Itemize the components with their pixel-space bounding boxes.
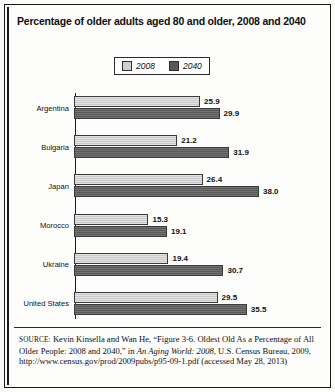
source-label: SOURCE:: [19, 336, 51, 344]
bar-2040[interactable]: [74, 304, 247, 315]
bar-group: United States29.535.5: [13, 289, 327, 319]
bar-value-label-2040: 19.1: [171, 227, 187, 236]
bar-row-2008: 21.2: [74, 135, 197, 146]
legend-swatch-2008: [122, 61, 132, 71]
bar-value-label-2008: 25.9: [204, 97, 220, 106]
bar-2040[interactable]: [74, 265, 223, 276]
legend-label-2008: 2008: [136, 61, 155, 71]
chart-title: Percentage of older adults aged 80 and o…: [17, 15, 320, 28]
bar-2008[interactable]: [74, 292, 218, 303]
bar-row-2008: 15.3: [74, 214, 168, 225]
bar-2040[interactable]: [74, 186, 259, 197]
legend-item-2008[interactable]: 2008: [122, 61, 155, 71]
category-label: Morocco: [13, 221, 73, 230]
source-note: SOURCE: Kevin Kinsella and Wan He, “Figu…: [19, 334, 318, 367]
bar-value-label-2008: 21.2: [181, 136, 197, 145]
bar-row-2040: 19.1: [74, 226, 187, 237]
bar-pair: 19.430.7: [73, 250, 327, 280]
figure-frame: Percentage of older adults aged 80 and o…: [4, 4, 331, 388]
source-italic-1: An Aging World: 2008: [137, 346, 214, 356]
bar-value-label-2008: 26.4: [207, 175, 223, 184]
bar-value-label-2008: 15.3: [152, 215, 168, 224]
bar-2008[interactable]: [74, 214, 148, 225]
category-label: Argentina: [13, 104, 73, 113]
legend-swatch-2040: [169, 61, 179, 71]
bar-2008[interactable]: [74, 253, 168, 264]
bar-row-2040: 38.0: [74, 186, 279, 197]
bar-2040[interactable]: [74, 147, 229, 158]
bar-2008[interactable]: [74, 135, 177, 146]
bar-2040[interactable]: [74, 108, 220, 119]
bar-group: Morocco15.319.1: [13, 211, 327, 241]
chart-legend: 2008 2040: [114, 57, 210, 75]
bar-2040[interactable]: [74, 226, 167, 237]
bar-row-2008: 26.4: [74, 174, 222, 185]
bar-value-label-2040: 35.5: [251, 305, 267, 314]
bar-group: Bulgaria21.231.9: [13, 132, 327, 162]
category-label: United States: [13, 299, 73, 308]
bar-row-2008: 25.9: [74, 96, 220, 107]
bar-value-label-2008: 19.4: [172, 254, 188, 263]
bar-value-label-2040: 30.7: [227, 266, 243, 275]
bar-group: Japan26.438.0: [13, 171, 327, 201]
bar-row-2040: 29.9: [74, 108, 239, 119]
bar-pair: 21.231.9: [73, 132, 327, 162]
category-label: Ukraine: [13, 260, 73, 269]
bar-row-2040: 30.7: [74, 265, 243, 276]
category-label: Japan: [13, 182, 73, 191]
bar-row-2040: 35.5: [74, 304, 266, 315]
category-label: Bulgaria: [13, 143, 73, 152]
plot-area: Argentina25.929.9Bulgaria21.231.9Japan26…: [13, 91, 327, 323]
figure-container: Percentage of older adults aged 80 and o…: [0, 0, 335, 392]
bar-row-2008: 29.5: [74, 292, 237, 303]
bar-row-2008: 19.4: [74, 253, 188, 264]
bar-pair: 26.438.0: [73, 171, 327, 201]
bar-value-label-2008: 29.5: [222, 293, 238, 302]
bar-row-2040: 31.9: [74, 147, 249, 158]
bar-pair: 15.319.1: [73, 211, 327, 241]
legend-item-2040[interactable]: 2040: [169, 61, 202, 71]
source-divider: [14, 327, 321, 328]
legend-label-2040: 2040: [183, 61, 202, 71]
bar-groups: Argentina25.929.9Bulgaria21.231.9Japan26…: [13, 93, 327, 319]
bar-value-label-2040: 31.9: [233, 148, 249, 157]
bar-2008[interactable]: [74, 96, 200, 107]
bar-value-label-2040: 29.9: [224, 109, 240, 118]
bar-group: Ukraine19.430.7: [13, 250, 327, 280]
bar-group: Argentina25.929.9: [13, 93, 327, 123]
bar-value-label-2040: 38.0: [263, 187, 279, 196]
bar-pair: 29.535.5: [73, 289, 327, 319]
bar-pair: 25.929.9: [73, 93, 327, 123]
bar-2008[interactable]: [74, 174, 203, 185]
